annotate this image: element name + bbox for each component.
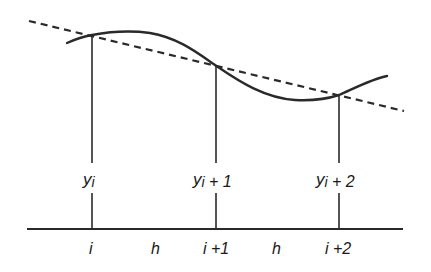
axis-label-i: i: [89, 240, 93, 257]
axis-label-h-2: h: [272, 240, 281, 257]
axis-label-h-1: h: [151, 240, 160, 257]
label-yi-plus-2: yi + 2: [315, 170, 355, 190]
diagram-canvas: yi yi + 1 yi + 2 i h i +1 h i +2: [0, 0, 431, 272]
label-yi: yi: [82, 170, 96, 190]
label-yi-plus-1: yi + 1: [192, 170, 232, 190]
axis-label-i-plus-2: i +2: [325, 240, 351, 257]
axis-label-i-plus-1: i +1: [203, 240, 229, 257]
